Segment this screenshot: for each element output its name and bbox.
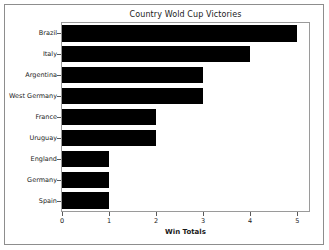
bars-layer xyxy=(62,23,309,211)
x-axis-label: Win Totals xyxy=(61,228,310,236)
bar-row xyxy=(62,192,309,208)
y-tick-label: Brazil xyxy=(0,29,57,37)
y-tick-label: France xyxy=(0,113,57,121)
bar-row xyxy=(62,88,309,104)
bar xyxy=(62,67,203,83)
y-tick-label: Uruguay xyxy=(0,134,57,142)
x-tick-label: 2 xyxy=(154,217,158,225)
y-tick-mark xyxy=(57,96,61,97)
bar xyxy=(62,25,297,41)
y-tick-mark xyxy=(57,33,61,34)
y-tick-label: Argentina xyxy=(0,71,57,79)
y-tick-label: Italy xyxy=(0,50,57,58)
x-tick-mark xyxy=(203,212,204,216)
x-tick-label: 3 xyxy=(201,217,205,225)
bar-row xyxy=(62,109,309,125)
bar xyxy=(62,172,109,188)
bar-row xyxy=(62,130,309,146)
bar-row xyxy=(62,67,309,83)
y-tick-mark xyxy=(57,201,61,202)
x-tick-label: 4 xyxy=(248,217,252,225)
chart-figure: Country Wold Cup Victories BrazilItalyAr… xyxy=(0,0,329,250)
bar xyxy=(62,46,250,62)
y-tick-mark xyxy=(57,159,61,160)
x-tick-mark xyxy=(62,212,63,216)
x-tick-mark xyxy=(156,212,157,216)
y-tick-mark xyxy=(57,180,61,181)
x-tick-label: 5 xyxy=(295,217,299,225)
y-tick-label: West Germany xyxy=(0,92,57,100)
bar-row xyxy=(62,25,309,41)
y-tick-mark xyxy=(57,117,61,118)
bar xyxy=(62,192,109,208)
y-tick-mark xyxy=(57,54,61,55)
x-tick-mark xyxy=(297,212,298,216)
bar xyxy=(62,88,203,104)
y-tick-mark xyxy=(57,138,61,139)
x-tick-mark xyxy=(250,212,251,216)
bar-row xyxy=(62,46,309,62)
bar-row xyxy=(62,172,309,188)
bar-row xyxy=(62,151,309,167)
chart-title: Country Wold Cup Victories xyxy=(61,10,310,19)
y-tick-label: Germany xyxy=(0,176,57,184)
bar xyxy=(62,130,156,146)
y-tick-label: Spain xyxy=(0,197,57,205)
bar xyxy=(62,109,156,125)
y-tick-mark xyxy=(57,75,61,76)
x-tick-mark xyxy=(109,212,110,216)
x-tick-label: 1 xyxy=(107,217,111,225)
x-tick-label: 0 xyxy=(60,217,64,225)
bar xyxy=(62,151,109,167)
y-tick-label: England xyxy=(0,155,57,163)
